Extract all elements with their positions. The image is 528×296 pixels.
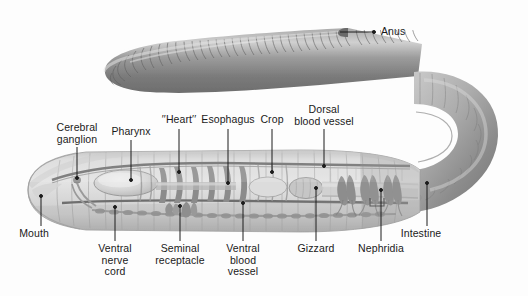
leader-dot-dorsal-blood-vessel — [323, 165, 326, 168]
label-dorsal-blood-vessel-line-0: Dorsal — [294, 104, 354, 116]
label-intestine-line-0: Intestine — [401, 228, 442, 240]
label-gizzard: Gizzard — [298, 243, 335, 255]
earthworm-anatomy-figure: AnusCerebralganglionPharynx′′Heart′′Esop… — [0, 0, 528, 296]
label-mouth-line-0: Mouth — [19, 228, 49, 240]
leader-dot-nephridia — [380, 189, 383, 192]
leader-dot-crop — [271, 171, 274, 174]
label-ventral-blood-vessel-line-0: Ventral — [226, 243, 259, 255]
label-ventral-nerve-cord: Ventralnervecord — [98, 243, 131, 278]
label-heart-line-0: ′′Heart′′ — [162, 114, 196, 126]
label-seminal-receptacle: Seminalreceptacle — [155, 243, 204, 266]
label-cerebral-ganglion-line-0: Cerebral — [56, 122, 97, 134]
label-crop: Crop — [260, 114, 283, 126]
label-cerebral-ganglion-line-1: ganglion — [56, 134, 97, 146]
label-ventral-blood-vessel-line-2: vessel — [226, 266, 259, 278]
leader-dot-gizzard — [315, 187, 318, 190]
label-dorsal-blood-vessel: Dorsalblood vessel — [294, 104, 354, 127]
earthworm-diagram-art — [0, 0, 528, 296]
label-ventral-blood-vessel: Ventralbloodvessel — [226, 243, 259, 278]
label-pharynx-line-0: Pharynx — [111, 126, 150, 138]
label-gizzard-line-0: Gizzard — [298, 243, 335, 255]
leader-dot-esophagus — [227, 182, 230, 185]
label-seminal-receptacle-line-0: Seminal — [155, 243, 204, 255]
label-seminal-receptacle-line-1: receptacle — [155, 255, 204, 267]
label-anus-line-0: Anus — [381, 26, 405, 38]
label-cerebral-ganglion: Cerebralganglion — [56, 122, 97, 145]
leader-dot-anus — [373, 31, 376, 34]
leader-dot-ventral-nerve-cord — [114, 206, 117, 209]
leader-dot-intestine — [426, 182, 429, 185]
label-ventral-nerve-cord-line-2: cord — [98, 266, 131, 278]
leader-dot-ventral-blood-vessel — [242, 202, 245, 205]
label-crop-line-0: Crop — [260, 114, 283, 126]
leader-dot-mouth — [40, 195, 43, 198]
label-pharynx: Pharynx — [111, 126, 150, 138]
leader-dot-seminal-receptacle — [179, 205, 182, 208]
label-esophagus-line-0: Esophagus — [201, 114, 254, 126]
worm-lower-body — [28, 150, 420, 232]
leader-dot-heart — [178, 171, 181, 174]
label-nephridia-line-0: Nephridia — [358, 243, 404, 255]
label-intestine: Intestine — [401, 228, 442, 240]
label-heart: ′′Heart′′ — [162, 114, 196, 126]
leader-dot-pharynx — [130, 179, 133, 182]
label-anus: Anus — [381, 26, 405, 38]
label-esophagus: Esophagus — [201, 114, 254, 126]
label-nephridia: Nephridia — [358, 243, 404, 255]
label-ventral-nerve-cord-line-0: Ventral — [98, 243, 131, 255]
label-dorsal-blood-vessel-line-1: blood vessel — [294, 116, 354, 128]
label-mouth: Mouth — [19, 228, 49, 240]
leader-dot-cerebral-ganglion — [76, 177, 79, 180]
